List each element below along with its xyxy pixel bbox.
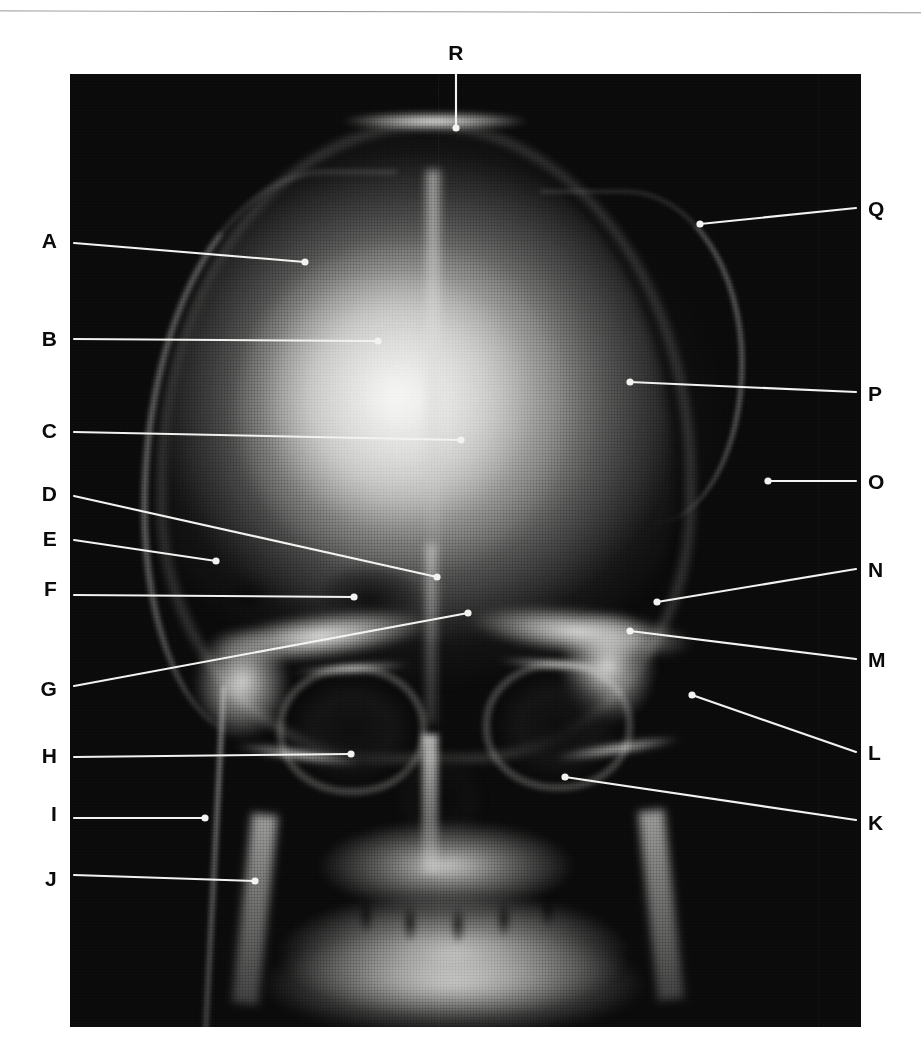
alveolar-notch [494, 896, 514, 942]
annotation-label-g: G [40, 678, 57, 699]
left-mastoid-air-cells [218, 574, 276, 618]
annotation-label-k: K [868, 812, 883, 833]
annotation-label-l: L [868, 742, 881, 763]
xray-plate [70, 74, 861, 1027]
right-mandibular-ramus [638, 809, 684, 1001]
left-mastoid-process [190, 630, 294, 754]
frontal-sinus-band [320, 110, 550, 132]
annotation-label-q: Q [868, 198, 885, 219]
page-top-rule [0, 10, 921, 14]
annotation-label-a: A [42, 230, 57, 251]
annotation-label-m: M [868, 649, 886, 670]
annotation-label-i: I [51, 803, 57, 824]
annotation-label-b: B [42, 328, 57, 349]
annotation-label-j: J [45, 868, 57, 889]
annotation-label-r: R [448, 42, 463, 63]
xray-image-panel [70, 74, 861, 1027]
alveolar-notch [356, 892, 376, 938]
annotation-label-c: C [42, 420, 57, 441]
right-scalp-outline [540, 190, 744, 523]
alveolar-notch [448, 902, 468, 948]
annotation-label-d: D [42, 483, 57, 504]
alveolar-notch [400, 900, 420, 946]
radiograph-figure: RABCDEFGHIJKLMNOPQ [0, 0, 921, 1057]
annotation-label-p: P [868, 383, 882, 404]
annotation-label-o: O [868, 471, 885, 492]
annotation-label-h: H [42, 745, 57, 766]
annotation-label-f: F [44, 578, 57, 599]
annotation-label-n: N [868, 559, 883, 580]
annotation-label-e: E [43, 528, 57, 549]
alveolar-notch [538, 886, 558, 932]
